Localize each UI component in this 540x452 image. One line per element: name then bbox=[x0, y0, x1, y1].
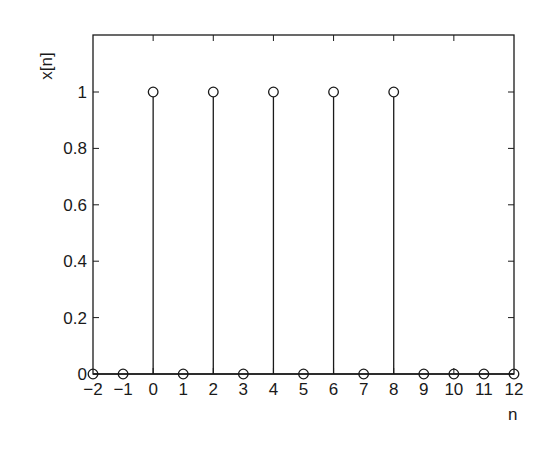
x-tick-label: 0 bbox=[148, 380, 157, 399]
x-tick-label: 7 bbox=[359, 380, 368, 399]
x-axis-label: n bbox=[508, 405, 517, 424]
y-tick-label: 1 bbox=[78, 83, 87, 102]
plot-area bbox=[93, 35, 514, 374]
x-tick-label: 3 bbox=[239, 380, 248, 399]
axes-box bbox=[93, 35, 514, 374]
stem-marker bbox=[148, 87, 158, 97]
x-tick-label: 8 bbox=[389, 380, 398, 399]
y-tick-label: 0.6 bbox=[63, 196, 87, 215]
x-tick-label: 1 bbox=[178, 380, 187, 399]
stem-series bbox=[88, 87, 519, 379]
x-tick-label: 12 bbox=[505, 380, 524, 399]
x-tick-label: 10 bbox=[444, 380, 463, 399]
x-tick-label: −2 bbox=[83, 380, 102, 399]
stem-marker bbox=[329, 87, 339, 97]
stem-plot: 00.20.40.60.81−2−10123456789101112 n x[n… bbox=[0, 0, 540, 452]
tick-labels: 00.20.40.60.81−2−10123456789101112 bbox=[63, 83, 523, 399]
x-tick-label: 6 bbox=[329, 380, 338, 399]
x-tick-label: 2 bbox=[209, 380, 218, 399]
x-tick-label: 4 bbox=[269, 380, 278, 399]
y-axis-label: x[n] bbox=[37, 52, 56, 79]
y-tick-label: 0.8 bbox=[63, 139, 87, 158]
x-tick-label: 5 bbox=[299, 380, 308, 399]
y-tick-label: 0.2 bbox=[63, 309, 87, 328]
stem-marker bbox=[389, 87, 399, 97]
x-tick-label: 9 bbox=[419, 380, 428, 399]
x-tick-label: −1 bbox=[113, 380, 132, 399]
stem-marker bbox=[269, 87, 279, 97]
y-tick-label: 0.4 bbox=[63, 252, 87, 271]
stem-marker bbox=[208, 87, 218, 97]
axis-ticks bbox=[93, 35, 514, 374]
x-tick-label: 11 bbox=[475, 380, 493, 399]
